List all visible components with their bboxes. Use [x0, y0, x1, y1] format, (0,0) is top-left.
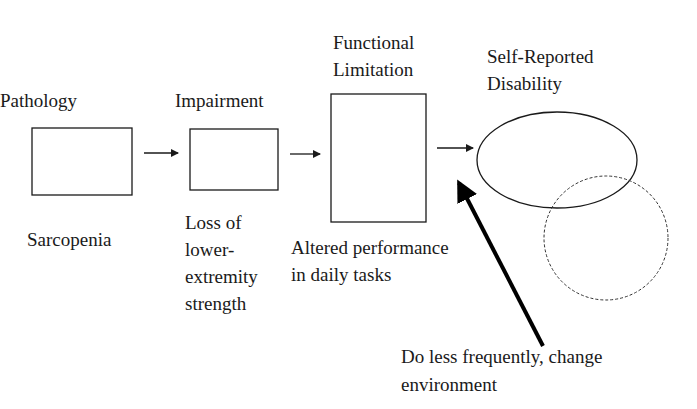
impairment-example-line4: strength: [185, 291, 246, 317]
intervention-label-line1: Do less frequently, change: [401, 344, 602, 370]
intervention-label-line2: environment: [401, 372, 497, 398]
pathology-example: Sarcopenia: [27, 227, 111, 253]
intervention-arrow: [459, 183, 543, 346]
impairment-title: Impairment: [175, 88, 264, 114]
functional-limitation-title-line2: Limitation: [333, 57, 413, 83]
impairment-example-line1: Loss of: [185, 210, 241, 236]
pathology-title: Pathology: [0, 88, 77, 114]
pathology-box: [32, 128, 132, 195]
self-reported-disability-ellipse: [477, 112, 637, 208]
limitation-example-line1: Altered performance: [291, 235, 449, 261]
impairment-box: [190, 129, 278, 190]
disability-title-line1: Self-Reported: [487, 44, 594, 70]
limitation-example-line2: in daily tasks: [291, 262, 391, 288]
impairment-example-line3: extremity: [185, 264, 258, 290]
functional-limitation-box: [331, 94, 426, 222]
modified-disability-dashed-circle: [544, 176, 668, 300]
impairment-example-line2: lower-: [185, 237, 234, 263]
functional-limitation-title-line1: Functional: [333, 30, 414, 56]
disability-title-line2: Disability: [487, 71, 562, 97]
